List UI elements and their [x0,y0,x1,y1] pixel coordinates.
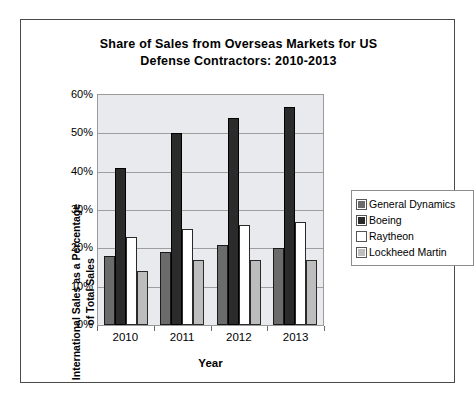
bar-group [104,95,148,325]
y-axis-tick-label: 50% [51,126,93,138]
bar-groups [98,95,323,325]
bar [126,237,137,325]
bar [273,248,284,325]
chart-title-line-1: Share of Sales from Overseas Markets for… [61,36,416,53]
x-axis-tick-mark [154,326,155,331]
chart-frame: Share of Sales from Overseas Markets for… [20,19,455,383]
bar [171,133,182,325]
x-axis-tick-mark [211,326,212,331]
x-axis-tick-label: 2012 [214,331,264,343]
y-axis-tick-label: 10% [51,280,93,292]
bar [193,260,204,325]
legend-item[interactable]: General Dynamics [358,196,469,212]
x-axis-tick-mark [97,326,98,331]
bar [137,271,148,325]
x-axis-tick-label: 2011 [157,331,207,343]
y-axis-tick-labels: 60%50%40%30%20%10%0% [51,86,93,334]
x-axis-tick-labels: 2010201120122013 [97,331,324,343]
bar-group [160,95,204,325]
bar [228,118,239,325]
legend-item[interactable]: Raytheon [358,228,469,244]
bar [306,260,317,325]
bar-group [217,95,261,325]
legend-label: Raytheon [369,230,414,242]
y-axis-tick-label: 20% [51,241,93,253]
x-axis-tick-label: 2010 [100,331,150,343]
bar-group [273,95,317,325]
x-axis-tick-mark [267,326,268,331]
legend-label: Boeing [369,214,402,226]
bar [250,260,261,325]
y-axis-tick-label: 0% [51,318,93,330]
legend-swatch-icon [358,217,365,224]
y-axis-tick-label: 60% [51,88,93,100]
bar [239,225,250,325]
bar [284,107,295,326]
bar [115,168,126,325]
bar [182,229,193,325]
legend-swatch-icon [358,201,365,208]
plot-area [97,94,324,326]
bar [217,245,228,326]
legend-item[interactable]: Boeing [358,212,469,228]
bar [104,256,115,325]
y-axis-tick-label: 30% [51,203,93,215]
bar [160,252,171,325]
legend-swatch-icon [358,233,365,240]
x-axis-tick-label: 2013 [271,331,321,343]
chart-title-line-2: Defense Contractors: 2010-2013 [61,53,416,70]
chart-title: Share of Sales from Overseas Markets for… [61,36,416,70]
x-axis-tick-mark [324,326,325,331]
bar [295,222,306,326]
x-axis-title: Year [97,357,324,369]
chart-legend: General DynamicsBoeingRaytheonLockheed M… [351,190,474,266]
legend-label: Lockheed Martin [369,246,447,258]
legend-label: General Dynamics [369,198,455,210]
legend-item[interactable]: Lockheed Martin [358,244,469,260]
y-axis-tick-label: 40% [51,165,93,177]
legend-swatch-icon [358,249,365,256]
